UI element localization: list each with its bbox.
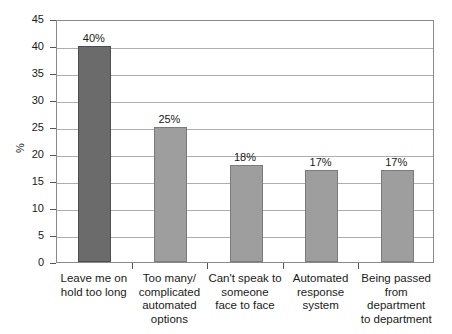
x-category-label-line: hold too long (52, 286, 136, 300)
plot-area (56, 20, 434, 263)
x-axis-category-label: Can't speak tosomeoneface to face (203, 272, 287, 313)
y-axis-tick-label: 0 (0, 257, 44, 268)
y-axis-tick-label: 25 (0, 122, 44, 133)
x-category-label-line: system (279, 299, 363, 313)
bar[interactable] (381, 170, 414, 262)
bar-value-label: 25% (139, 114, 199, 125)
bar-value-label: 17% (291, 157, 351, 168)
x-category-label-line: someone (203, 286, 287, 300)
y-axis-tick-label: 30 (0, 95, 44, 106)
bar[interactable] (230, 165, 263, 262)
x-category-label-line: Too many/ (128, 272, 212, 286)
bar-value-label: 18% (215, 152, 275, 163)
x-category-label-line: Can't speak to (203, 272, 287, 286)
x-axis-tick-mark (283, 263, 284, 269)
x-axis-category-label: Leave me onhold too long (52, 272, 136, 299)
x-category-label-line: Leave me on (52, 272, 136, 286)
gridline (57, 102, 433, 103)
y-axis-tick-mark (50, 263, 56, 264)
x-category-label-line: options (128, 313, 212, 327)
bar[interactable] (78, 46, 111, 262)
x-category-label-line: to department (354, 313, 438, 327)
x-category-label-line: complicated (128, 286, 212, 300)
x-category-label-line: Being passed (354, 272, 438, 286)
bar-value-label: 40% (64, 33, 124, 44)
x-category-label-line: automated (128, 299, 212, 313)
y-axis-tick-label: 15 (0, 176, 44, 187)
gridline (57, 48, 433, 49)
gridline (57, 75, 433, 76)
x-category-label-line: face to face (203, 299, 287, 313)
x-category-label-line: response (279, 286, 363, 300)
x-axis-tick-mark (358, 263, 359, 269)
x-axis-category-label: Being passedfrom departmentto department (354, 272, 438, 326)
gridline (57, 129, 433, 130)
x-axis-category-label: Automatedresponsesystem (279, 272, 363, 313)
x-axis-tick-mark (132, 263, 133, 269)
x-category-label-line: Automated (279, 272, 363, 286)
bar[interactable] (305, 170, 338, 262)
bar-chart: % 454035302520151050 40%25%18%17%17% Lea… (0, 0, 452, 334)
bar[interactable] (154, 127, 187, 262)
x-category-label-line: from department (354, 286, 438, 313)
y-axis-tick-label: 10 (0, 203, 44, 214)
y-axis-tick-label: 45 (0, 14, 44, 25)
x-axis-tick-mark (207, 263, 208, 269)
bar-value-label: 17% (366, 157, 426, 168)
y-axis-tick-label: 5 (0, 230, 44, 241)
y-axis-tick-label: 35 (0, 68, 44, 79)
y-axis-tick-label: 20 (0, 149, 44, 160)
y-axis-tick-label: 40 (0, 41, 44, 52)
x-axis-category-label: Too many/complicatedautomatedoptions (128, 272, 212, 326)
